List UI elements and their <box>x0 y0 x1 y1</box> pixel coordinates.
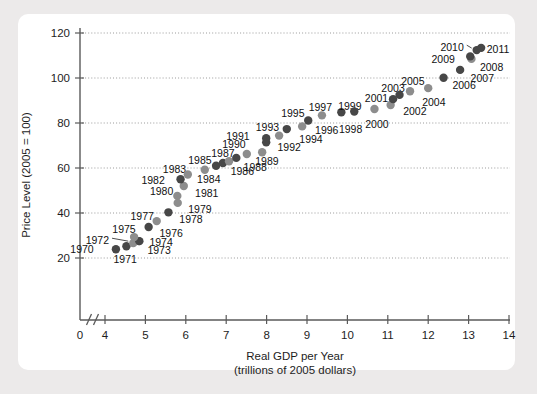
x-axis-subtitle: (trillions of 2005 dollars) <box>234 364 356 376</box>
point-label-1992: 1992 <box>278 141 302 153</box>
data-point-1988 <box>232 154 240 162</box>
data-point-1992 <box>262 134 270 142</box>
leader-line-2010 <box>467 45 472 48</box>
data-point-1976 <box>144 223 152 231</box>
data-point-2003 <box>395 91 403 99</box>
plot-host: 2040608010012004567891011121314197019711… <box>0 0 537 394</box>
y-tick-label-80: 80 <box>57 117 70 129</box>
y-tick-label-60: 60 <box>57 162 70 174</box>
x-tick-label-10: 10 <box>341 329 354 341</box>
point-label-1985: 1985 <box>188 154 212 166</box>
point-label-2004: 2004 <box>422 96 446 108</box>
x-tick-label-14: 14 <box>503 329 516 341</box>
point-label-1982: 1982 <box>141 174 165 186</box>
scatter-chart: 2040608010012004567891011121314197019711… <box>0 0 537 394</box>
data-point-1990 <box>258 148 266 156</box>
point-label-1989: 1989 <box>255 155 279 167</box>
data-point-2009 <box>466 52 474 60</box>
data-point-1995 <box>304 116 312 124</box>
data-point-1997 <box>318 111 326 119</box>
x-tick-label-11: 11 <box>382 329 394 341</box>
x-tick-label-0: 0 <box>77 329 83 341</box>
data-point-1994 <box>283 125 291 133</box>
y-tick-label-20: 20 <box>57 252 70 264</box>
point-label-2008: 2008 <box>480 61 504 73</box>
point-label-1995: 1995 <box>281 107 305 119</box>
point-label-1984: 1984 <box>197 173 221 185</box>
point-label-1971: 1971 <box>114 253 138 265</box>
point-label-2007: 2007 <box>471 72 495 84</box>
point-label-1979: 1979 <box>188 203 212 215</box>
x-tick-label-9: 9 <box>304 329 310 341</box>
y-tick-label-120: 120 <box>51 27 70 39</box>
point-label-1983: 1983 <box>163 163 187 175</box>
point-label-1993: 1993 <box>256 121 280 133</box>
point-label-2000: 2000 <box>365 118 389 130</box>
leader-line-1972 <box>112 238 128 241</box>
x-tick-label-4: 4 <box>102 329 109 341</box>
data-point-1980 <box>173 192 181 200</box>
data-point-2007 <box>456 66 464 74</box>
data-point-1999 <box>350 107 358 115</box>
point-label-1972: 1972 <box>86 234 110 246</box>
point-label-1981: 1981 <box>195 187 219 199</box>
x-tick-label-7: 7 <box>223 329 229 341</box>
point-label-2011: 2011 <box>487 43 510 55</box>
point-label-2001: 2001 <box>365 92 389 104</box>
y-axis-title: Price Level (2005 = 100) <box>20 112 32 238</box>
y-tick-label-100: 100 <box>51 72 70 84</box>
point-label-1991: 1991 <box>226 130 250 142</box>
figure-container: 2040608010012004567891011121314197019711… <box>0 0 537 394</box>
data-point-1977 <box>153 217 161 225</box>
point-label-1976: 1976 <box>160 227 184 239</box>
x-axis-title: Real GDP per Year <box>246 350 344 362</box>
x-tick-label-6: 6 <box>183 329 189 341</box>
point-label-2009: 2009 <box>432 53 456 65</box>
data-point-1978 <box>164 208 172 216</box>
x-tick-label-13: 13 <box>462 329 475 341</box>
y-tick-label-40: 40 <box>57 207 70 219</box>
data-point-1984 <box>201 166 209 174</box>
data-point-1982 <box>176 175 184 183</box>
data-point-2000 <box>370 105 378 113</box>
data-point-2006 <box>439 74 447 82</box>
data-point-1975 <box>130 233 138 241</box>
x-tick-label-5: 5 <box>142 329 148 341</box>
data-point-2011 <box>477 44 485 52</box>
data-point-2004 <box>406 87 414 95</box>
x-tick-label-12: 12 <box>422 329 435 341</box>
data-point-2005 <box>424 84 432 92</box>
data-point-1993 <box>275 131 283 139</box>
point-label-2010: 2010 <box>440 41 464 53</box>
point-label-2005: 2005 <box>401 75 425 87</box>
point-label-1996: 1996 <box>315 124 339 136</box>
data-point-1996 <box>298 122 306 130</box>
point-label-1977: 1977 <box>130 210 154 222</box>
data-point-1987 <box>225 157 233 165</box>
data-point-1989 <box>243 150 251 158</box>
x-tick-label-8: 8 <box>263 329 269 341</box>
point-label-1998: 1998 <box>339 123 363 135</box>
data-point-1983 <box>184 170 192 178</box>
point-label-1980: 1980 <box>150 185 174 197</box>
